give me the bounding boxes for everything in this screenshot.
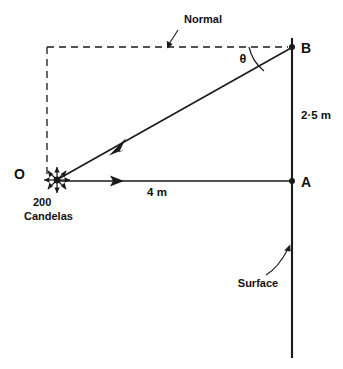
surface-label: Surface [238, 277, 278, 289]
surface-leader-line [266, 249, 288, 275]
source-ray-w-head [44, 177, 49, 182]
surface-callout: Surface [238, 244, 291, 289]
point-b-marker [289, 44, 295, 50]
angle-theta: θ [240, 47, 264, 71]
diagram-canvas: Illumination geometry: point source O, s… [0, 0, 343, 369]
illumination-diagram: Illumination geometry: point source O, s… [0, 0, 343, 369]
normal-leader-line [169, 30, 178, 44]
distance-oa-label: 4 m [147, 186, 167, 198]
point-a-label: A [301, 174, 311, 190]
ray-oa [60, 176, 292, 187]
height-ab-label: 2·5 m [301, 109, 331, 121]
point-a-marker [289, 178, 295, 184]
source-ray-s-head [54, 188, 59, 193]
source-intensity-unit: Candelas [24, 210, 73, 222]
light-source-burst [44, 167, 70, 193]
source-ray-n-head [54, 167, 59, 172]
source-ray-sw-head [48, 183, 53, 190]
ray-ob [60, 48, 291, 178]
normal-construction-lines [47, 47, 288, 176]
point-o-label: O [14, 166, 25, 182]
source-ray-se-head [61, 183, 66, 190]
point-b-label: B [301, 40, 311, 56]
source-ray-e-head [65, 177, 70, 182]
source-ray-nw-head [48, 171, 53, 178]
normal-callout: Normal [167, 13, 222, 48]
surface-leader-arrowhead [284, 244, 290, 251]
source-intensity-value: 200 [33, 196, 51, 208]
source-rays [44, 167, 70, 193]
normal-label: Normal [184, 13, 222, 25]
ray-ob-line [60, 48, 291, 178]
ray-ob-arrowhead [109, 138, 126, 156]
angle-theta-label: θ [240, 52, 247, 66]
